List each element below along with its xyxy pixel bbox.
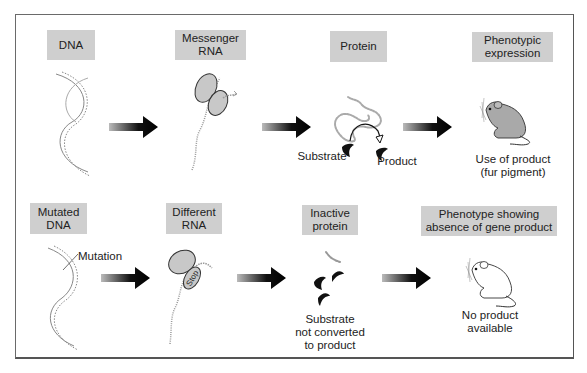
ribosome-mrna-icon xyxy=(188,70,258,175)
label-phenotype-absence: Phenotype showing absence of gene produc… xyxy=(421,206,557,236)
product-label: Product xyxy=(374,155,420,168)
flow-arrow-icon[interactable] xyxy=(382,267,432,289)
dna-helix-icon xyxy=(42,246,82,351)
ribosome-stop-icon: Stop xyxy=(166,248,226,348)
label-dna: DNA xyxy=(47,30,95,60)
flow-arrow-icon[interactable] xyxy=(403,116,453,138)
flow-arrow-icon[interactable] xyxy=(262,116,312,138)
mutation-label: Mutation xyxy=(78,250,124,263)
caption-no-product: No product available xyxy=(455,309,525,335)
label-different-rna: Different RNA xyxy=(166,203,222,234)
caption-substrate-not-converted: Substrate not converted to product xyxy=(290,313,370,352)
label-phenotypic-expression: Phenotypic expression xyxy=(472,32,553,62)
dna-helix-icon xyxy=(52,72,92,177)
substrate-icon xyxy=(310,250,360,310)
flow-arrow-icon[interactable] xyxy=(237,267,287,289)
label-protein: Protein xyxy=(330,31,387,62)
caption-use-of-product: Use of product (fur pigment) xyxy=(468,153,558,179)
substrate-label: Substrate xyxy=(296,150,348,163)
label-mutated-dna: Mutated DNA xyxy=(30,203,87,234)
flow-arrow-icon[interactable] xyxy=(109,116,159,138)
flow-arrow-icon[interactable] xyxy=(101,267,151,289)
label-messenger-rna: Messenger RNA xyxy=(175,30,246,60)
label-inactive-protein: Inactive protein xyxy=(302,205,358,235)
pigmented-mouse-icon xyxy=(476,96,536,148)
white-mouse-icon xyxy=(462,256,522,311)
